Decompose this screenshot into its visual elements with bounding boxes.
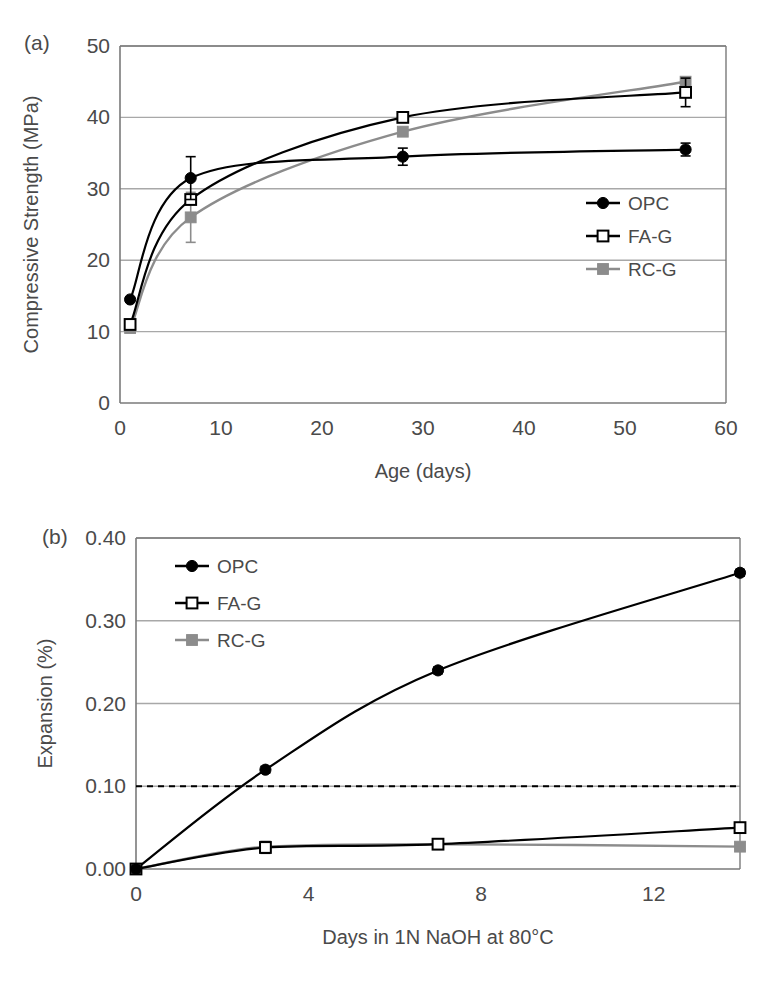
marker-filled-circle [125,294,136,305]
marker-filled-square [397,126,408,137]
x-tick-label: 50 [613,416,636,439]
marker-filled-square [598,264,609,275]
series-line [136,573,740,869]
y-tick-label: 40 [87,105,110,128]
x-tick-label: 30 [411,416,434,439]
y-tick-labels: 01020304050 [87,34,110,414]
x-tick-label: 10 [209,416,232,439]
series-opc [130,150,686,300]
chart-a-svg: 010203040500102030405060Age (days)Compre… [0,0,781,500]
marker-filled-circle [130,863,141,874]
x-tick-label: 0 [130,882,142,905]
panel-label: (b) [42,525,68,548]
marker-filled-circle [185,173,196,184]
y-tick-label: 10 [87,320,110,343]
marker-open-square [397,112,408,123]
marker-open-square [735,822,746,833]
marker-open-square [680,87,691,98]
marker-filled-circle [597,197,608,208]
legend-label: OPC [628,193,669,214]
marker-filled-square [185,212,196,223]
marker-open-square [260,842,271,853]
marker-filled-circle [186,560,197,571]
legend-label: RC-G [217,630,266,651]
y-tick-label: 0.00 [85,857,126,880]
legend-label: OPC [217,556,258,577]
legend-label: FA-G [628,226,672,247]
x-tick-label: 40 [512,416,535,439]
markers-fa-g [131,822,746,874]
series-line [130,150,686,300]
marker-filled-circle [432,665,443,676]
series-opc [136,573,740,869]
x-tick-label: 0 [114,416,126,439]
legend-item-rc-g[interactable]: RC-G [175,630,266,651]
chart-panel-b: 0.000.100.200.300.4004812Days in 1N NaOH… [0,500,781,1008]
figure-container: 010203040500102030405060Age (days)Compre… [0,0,781,1008]
legend-item-rc-g[interactable]: RC-G [586,259,677,280]
markers-opc [125,143,692,305]
x-tick-label: 12 [642,882,665,905]
x-tick-label: 20 [310,416,333,439]
y-tick-label: 0.20 [85,692,126,715]
marker-open-square [187,598,198,609]
legend: OPCFA-GRC-G [586,193,677,280]
x-tick-labels: 0102030405060 [114,416,738,439]
chart-panel-a: 010203040500102030405060Age (days)Compre… [0,0,781,500]
x-tick-label: 8 [475,882,487,905]
plot-frame [120,46,726,403]
y-tick-label: 30 [87,177,110,200]
y-tick-label: 0 [98,391,110,414]
legend-item-fa-g[interactable]: FA-G [175,593,261,614]
marker-filled-circle [734,567,745,578]
legend-label: RC-G [628,259,677,280]
marker-filled-circle [397,151,408,162]
marker-open-square [598,231,609,242]
chart-b-svg: 0.000.100.200.300.4004812Days in 1N NaOH… [0,500,781,1008]
x-tick-label: 4 [303,882,315,905]
y-tick-label: 50 [87,34,110,57]
y-tick-label: 20 [87,248,110,271]
legend: OPCFA-GRC-G [175,556,266,651]
x-tick-label: 60 [714,416,737,439]
marker-filled-square [735,841,746,852]
y-tick-label: 0.10 [85,774,126,797]
legend-item-opc[interactable]: OPC [175,556,258,577]
x-tick-labels: 04812 [130,882,665,905]
marker-filled-circle [260,764,271,775]
y-tick-labels: 0.000.100.200.300.40 [85,526,126,880]
marker-open-square [433,839,444,850]
marker-filled-circle [680,144,691,155]
x-axis-title: Age (days) [375,460,472,482]
legend-item-fa-g[interactable]: FA-G [586,226,672,247]
y-tick-label: 0.40 [85,526,126,549]
x-axis-title: Days in 1N NaOH at 80°C [322,926,553,948]
marker-filled-square [187,635,198,646]
panel-label: (a) [24,31,50,54]
marker-open-square [125,319,136,330]
y-tick-label: 0.30 [85,609,126,632]
y-axis-title: Expansion (%) [34,638,56,768]
legend-item-opc[interactable]: OPC [586,193,669,214]
legend-label: FA-G [217,593,261,614]
y-axis-title: Compressive Strength (MPa) [20,96,42,354]
